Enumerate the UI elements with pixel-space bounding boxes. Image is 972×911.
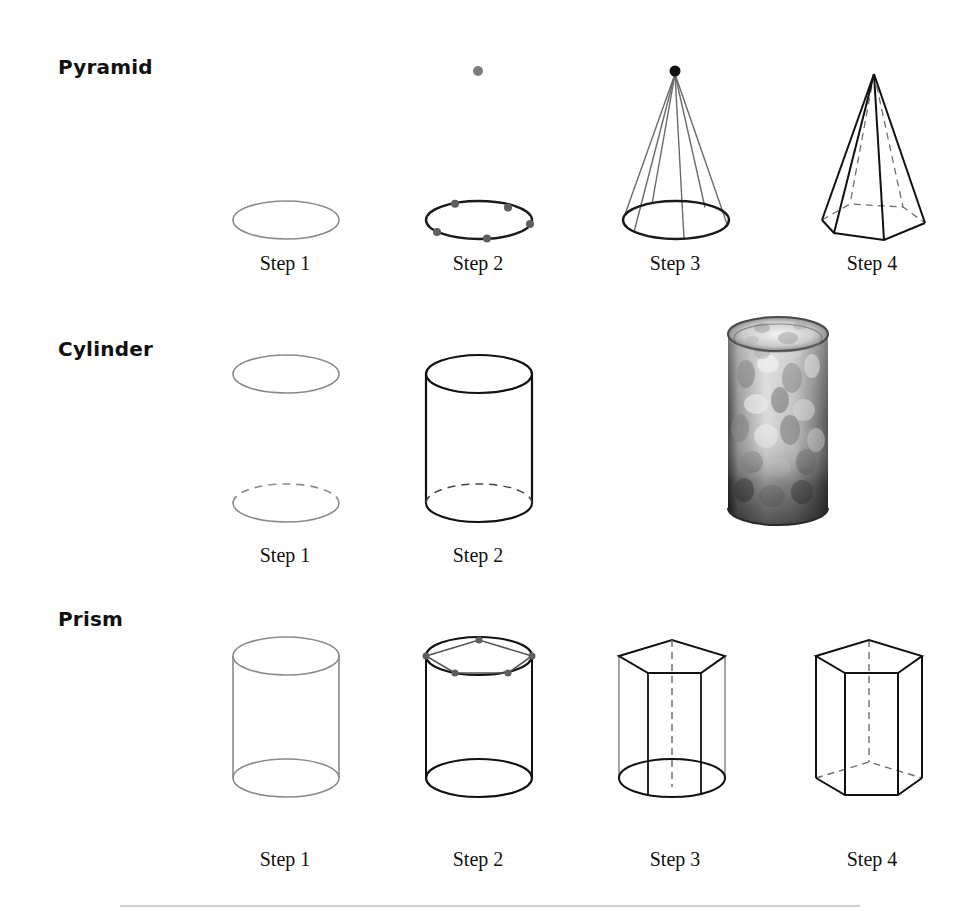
pyramid-step-4-drawing — [808, 52, 943, 252]
pyramid-step-2-caption: Step 2 — [453, 252, 504, 275]
prism-step-4-caption: Step 4 — [847, 848, 898, 871]
pyramid-step-3-caption: Step 3 — [650, 252, 701, 275]
prism-step-3-drawing — [608, 630, 738, 810]
prism-step-1-drawing — [222, 630, 352, 810]
cylinder-step-2-caption: Step 2 — [453, 544, 504, 567]
prism-step-1-caption: Step 1 — [260, 848, 311, 871]
cylinder-step-2-drawing — [415, 348, 545, 528]
pyramid-step-2-drawing — [415, 52, 545, 252]
figure-page: Pyramid Step 1 Step 2 — [0, 0, 972, 911]
row-label-pyramid: Pyramid — [58, 55, 153, 79]
pyramid-step-4-caption: Step 4 — [847, 252, 898, 275]
pyramid-step-1-drawing — [222, 180, 352, 250]
page-bottom-rule — [120, 905, 860, 907]
row-label-prism: Prism — [58, 607, 123, 631]
row-label-cylinder: Cylinder — [58, 337, 153, 361]
prism-step-2-drawing — [415, 630, 545, 810]
prism-step-2-caption: Step 2 — [453, 848, 504, 871]
cylinder-step-1-caption: Step 1 — [260, 544, 311, 567]
pyramid-step-3-drawing — [612, 52, 742, 252]
prism-step-3-caption: Step 3 — [650, 848, 701, 871]
pyramid-step-1-caption: Step 1 — [260, 252, 311, 275]
mottled-glass-tumbler-photo — [722, 312, 834, 534]
cylinder-step-1-drawing — [222, 348, 352, 528]
prism-step-4-drawing — [805, 630, 940, 815]
